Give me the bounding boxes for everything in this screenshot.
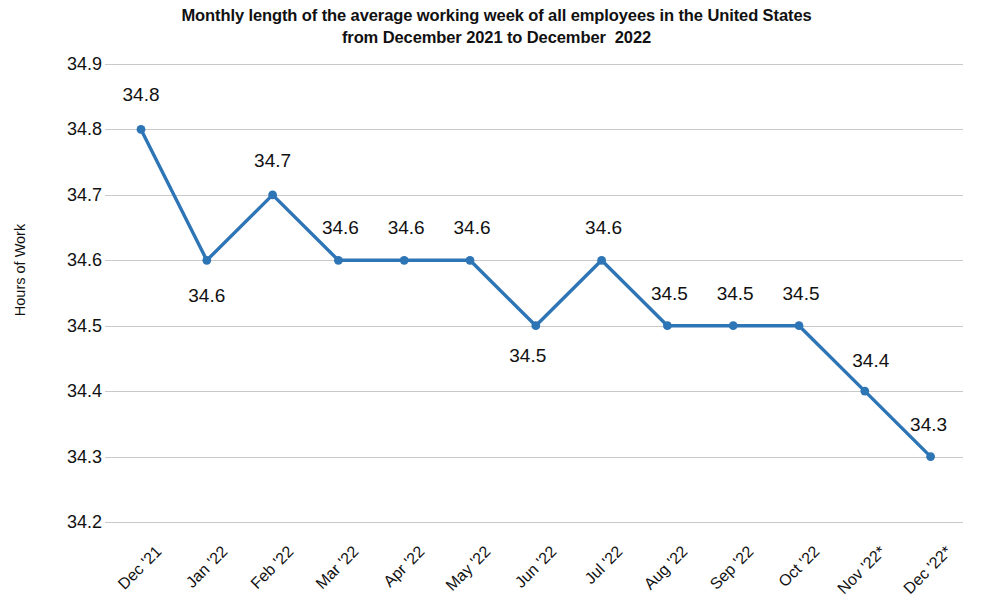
line-chart: Monthly length of the average working we…	[0, 0, 993, 613]
x-tick-label: Dec '21	[47, 543, 166, 613]
x-axis-tick-labels: Dec '21Jan '22Feb '22Mar '22Apr '22May '…	[0, 0, 993, 613]
